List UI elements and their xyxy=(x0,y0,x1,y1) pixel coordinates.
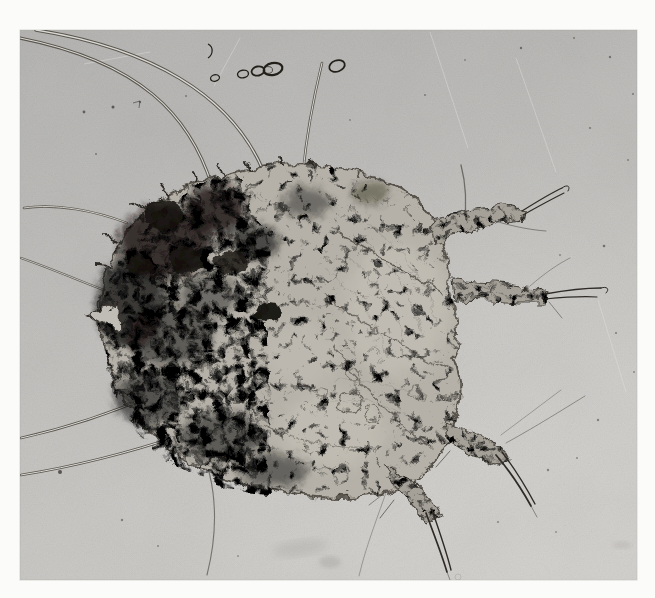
dust-speck xyxy=(573,37,575,39)
dust-speck xyxy=(58,470,62,474)
dust-speck xyxy=(547,469,549,471)
dust-speck xyxy=(559,254,561,256)
page xyxy=(0,0,655,598)
photomicrograph-figure xyxy=(0,0,655,598)
dust-speck xyxy=(121,519,123,521)
dust-speck xyxy=(633,371,635,373)
dust-speck xyxy=(497,521,499,523)
dust-speck xyxy=(185,95,187,97)
smudge xyxy=(612,541,632,549)
body-dark-spot xyxy=(252,300,278,320)
cuticle-spike xyxy=(95,263,108,264)
dust-speck xyxy=(589,127,591,129)
body-dark-spot xyxy=(124,253,150,273)
dust-speck xyxy=(520,47,522,49)
dust-speck xyxy=(632,93,634,95)
body-dark-spot xyxy=(215,248,245,272)
dust-speck xyxy=(464,59,466,61)
dust-speck xyxy=(237,555,239,557)
body-dark-spot xyxy=(141,197,179,227)
dust-speck xyxy=(157,545,159,547)
dust-speck xyxy=(609,56,611,58)
dust-speck xyxy=(615,332,617,334)
photomicrograph xyxy=(0,0,655,598)
dust-speck xyxy=(603,245,606,248)
dust-speck xyxy=(424,94,426,96)
dust-speck xyxy=(349,119,351,121)
dust-speck xyxy=(95,153,97,155)
dust-speck xyxy=(576,457,578,459)
dust-speck xyxy=(112,106,115,109)
dust-speck xyxy=(555,531,557,533)
smudge xyxy=(319,556,341,568)
dust-speck xyxy=(83,111,86,114)
body-dark-spot xyxy=(167,244,201,270)
dust-speck xyxy=(597,419,599,421)
dust-speck xyxy=(627,159,629,161)
